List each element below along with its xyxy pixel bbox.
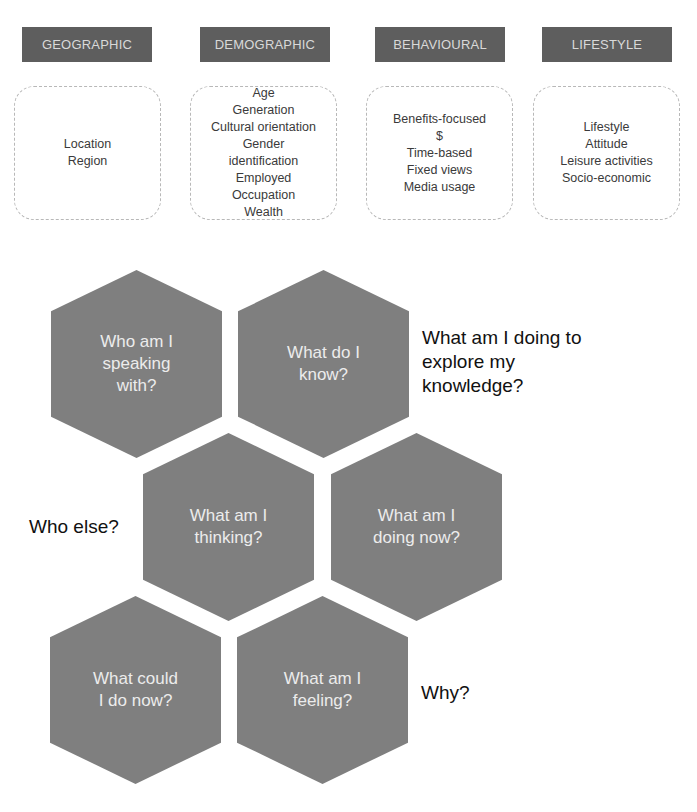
hexagon-line: What am I	[263, 668, 383, 690]
demographic-item: Occupation	[232, 187, 295, 204]
hexagon-line: What am I	[169, 505, 289, 527]
geographic-item: Location	[64, 136, 111, 153]
hexagon-text: What am I feeling?	[263, 668, 383, 712]
label-who-else: Who else?	[29, 515, 119, 539]
demographic-item: Age	[252, 85, 274, 102]
behavioural-item: Fixed views	[407, 162, 472, 179]
hexagon-what-could-i-do-now: What could I do now?	[50, 596, 221, 784]
hexagon-line: Who am I	[77, 331, 197, 353]
hexagon-line: with?	[77, 375, 197, 397]
hexagon-text: What am I thinking?	[169, 505, 289, 549]
demographic-item: Employed	[236, 170, 292, 187]
lifestyle-item: Socio-economic	[562, 170, 651, 187]
hexagon-text: What could I do now?	[76, 668, 196, 712]
hexagon-text: What am I doing now?	[357, 505, 477, 549]
label-explore-knowledge: What am I doing to explore my knowledge?	[422, 326, 581, 398]
lifestyle-item: Leisure activities	[560, 153, 652, 170]
hexagon-who-am-i-speaking-with: Who am I speaking with?	[51, 270, 222, 458]
label-line: knowledge?	[422, 374, 581, 398]
hexagon-line: doing now?	[357, 527, 477, 549]
lifestyle-item: Attitude	[585, 136, 627, 153]
label-line: What am I doing to	[422, 326, 581, 350]
hexagon-text: Who am I speaking with?	[77, 331, 197, 397]
hexagon-line: What am I	[357, 505, 477, 527]
header-geographic: GEOGRAPHIC	[22, 27, 152, 62]
behavioural-item: Media usage	[404, 179, 476, 196]
lifestyle-item: Lifestyle	[584, 119, 630, 136]
lifestyle-box: Lifestyle Attitude Leisure activities So…	[533, 86, 680, 220]
hexagon-what-do-i-know: What do I know?	[238, 270, 409, 458]
hexagon-line: feeling?	[263, 690, 383, 712]
geographic-item: Region	[68, 153, 108, 170]
demographic-item: Cultural orientation	[211, 119, 316, 136]
behavioural-box: Benefits-focused $ Time-based Fixed view…	[366, 86, 513, 220]
demographic-item: identification	[229, 153, 299, 170]
header-demographic: DEMOGRAPHIC	[200, 27, 330, 62]
demographic-item: Generation	[233, 102, 295, 119]
demographic-item: Wealth	[244, 204, 283, 221]
geographic-box: Location Region	[14, 86, 161, 220]
hexagon-what-am-i-doing-now: What am I doing now?	[331, 433, 502, 621]
behavioural-item: $	[436, 128, 443, 145]
demographic-item: Gender	[243, 136, 285, 153]
behavioural-item: Benefits-focused	[393, 111, 486, 128]
hexagon-text: What do I know?	[264, 342, 384, 386]
header-behavioural: BEHAVIOURAL	[375, 27, 505, 62]
label-why: Why?	[421, 681, 470, 705]
hexagon-what-am-i-thinking: What am I thinking?	[143, 433, 314, 621]
hexagon-line: know?	[264, 364, 384, 386]
behavioural-item: Time-based	[407, 145, 473, 162]
hexagon-line: thinking?	[169, 527, 289, 549]
label-line: explore my	[422, 350, 581, 374]
hexagon-line: What could	[76, 668, 196, 690]
header-lifestyle: LIFESTYLE	[542, 27, 672, 62]
demographic-box: Age Generation Cultural orientation Gend…	[190, 86, 337, 220]
hexagon-what-am-i-feeling: What am I feeling?	[237, 596, 408, 784]
hexagon-line: I do now?	[76, 690, 196, 712]
hexagon-line: What do I	[264, 342, 384, 364]
hexagon-line: speaking	[77, 353, 197, 375]
